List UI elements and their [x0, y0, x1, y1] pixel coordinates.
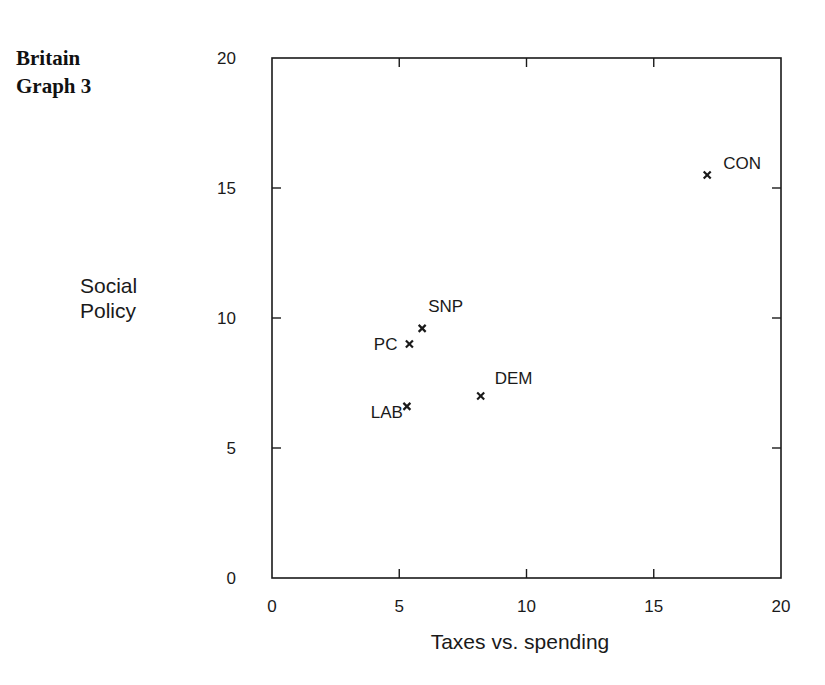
point-label: CON [723, 154, 761, 173]
scatter-plot: 0510152005101520CONSNPPCDEMLAB [0, 0, 825, 685]
point-label: DEM [495, 369, 533, 388]
point-label: SNP [428, 297, 463, 316]
x-tick-label: 15 [644, 597, 663, 616]
point-label: LAB [371, 403, 403, 422]
y-tick-label: 10 [217, 309, 236, 328]
y-tick-label: 0 [227, 569, 236, 588]
data-point-pc: PC [374, 335, 413, 354]
y-tick-label: 5 [227, 439, 236, 458]
data-point-lab: LAB [371, 403, 411, 423]
data-point-dem: DEM [477, 369, 532, 400]
data-point-con: CON [704, 154, 761, 179]
x-tick-label: 0 [267, 597, 276, 616]
y-tick-label: 20 [217, 49, 236, 68]
point-label: PC [374, 335, 398, 354]
x-tick-label: 20 [772, 597, 791, 616]
x-tick-label: 5 [395, 597, 404, 616]
data-point-snp: SNP [419, 297, 463, 332]
x-tick-label: 10 [517, 597, 536, 616]
plot-frame [272, 58, 781, 578]
y-tick-label: 15 [217, 179, 236, 198]
